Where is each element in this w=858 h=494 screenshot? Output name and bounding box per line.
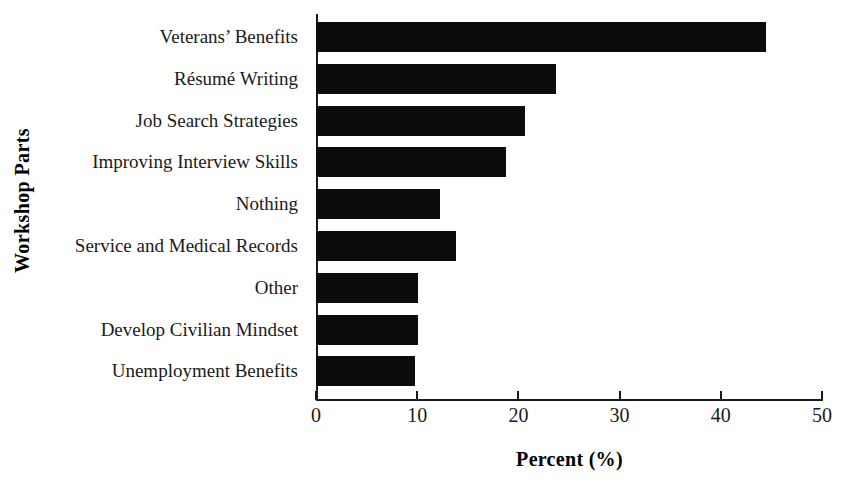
bar-chart: Workshop Parts Veterans’ BenefitsRésumé … <box>0 0 858 494</box>
category-label: Other <box>255 273 298 303</box>
bar-rect <box>316 356 415 386</box>
bar-rect <box>316 315 418 345</box>
x-axis-line <box>316 399 823 401</box>
category-axis-labels: Veterans’ BenefitsRésumé WritingJob Sear… <box>0 14 306 400</box>
bar-rect <box>316 273 418 303</box>
x-tick-mark <box>416 391 418 400</box>
bar-rect <box>316 231 456 261</box>
x-tick-label: 30 <box>590 404 650 427</box>
bar-rect <box>316 64 556 94</box>
x-tick-label: 50 <box>792 404 852 427</box>
plot-area <box>316 14 822 398</box>
bar-rect <box>316 22 766 52</box>
x-tick-label: 40 <box>691 404 751 427</box>
x-tick-mark <box>315 391 317 400</box>
bar-rect <box>316 189 440 219</box>
x-tick-mark <box>517 391 519 400</box>
category-label: Job Search Strategies <box>135 106 298 136</box>
category-label: Résumé Writing <box>174 64 298 94</box>
category-label: Nothing <box>236 189 298 219</box>
x-tick-label: 20 <box>488 404 548 427</box>
x-tick-label: 10 <box>387 404 447 427</box>
category-label: Improving Interview Skills <box>92 147 298 177</box>
bar-rect <box>316 106 525 136</box>
category-label: Develop Civilian Mindset <box>101 315 298 345</box>
category-label: Veterans’ Benefits <box>160 22 298 52</box>
category-label: Unemployment Benefits <box>112 356 298 386</box>
x-tick-mark <box>821 391 823 400</box>
x-tick-label: 0 <box>286 404 346 427</box>
bar-rect <box>316 147 506 177</box>
x-axis-title: Percent (%) <box>316 448 823 471</box>
category-label: Service and Medical Records <box>75 231 298 261</box>
x-tick-mark <box>619 391 621 400</box>
x-tick-mark <box>720 391 722 400</box>
